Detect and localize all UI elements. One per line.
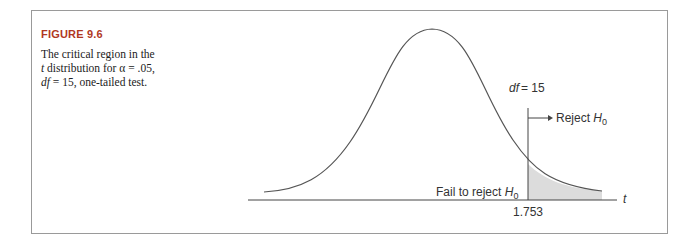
df-label: df= 15 — [509, 81, 545, 95]
reject-h0-label: Reject H0 — [556, 111, 607, 127]
fail-to-reject-h0-label: Fail to reject H0 — [436, 185, 518, 201]
arrow-head-icon — [548, 115, 553, 121]
critical-value-label: 1.753 — [513, 205, 543, 219]
axis-t-label: t — [623, 192, 627, 206]
t-distribution-curve — [264, 29, 602, 192]
t-distribution-diagram: df= 15 Reject H0 Fail to reject H0 t 1.7… — [0, 0, 699, 246]
